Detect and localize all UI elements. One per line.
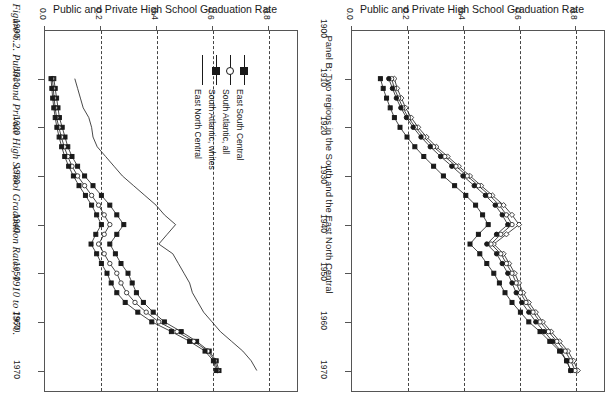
year-axis-label: 1970 bbox=[12, 360, 22, 379]
data-point bbox=[214, 369, 218, 373]
data-point bbox=[394, 96, 398, 100]
data-point bbox=[510, 300, 514, 304]
legend-label: East North Central bbox=[193, 89, 203, 159]
data-point bbox=[422, 154, 426, 158]
data-point bbox=[119, 281, 123, 285]
value-axis-tick bbox=[156, 26, 157, 30]
data-point bbox=[476, 232, 480, 236]
data-point bbox=[558, 349, 562, 353]
data-point bbox=[500, 213, 504, 217]
data-point bbox=[441, 174, 445, 178]
data-point bbox=[53, 116, 57, 120]
data-point bbox=[52, 106, 56, 110]
data-point bbox=[500, 261, 504, 265]
data-point bbox=[102, 232, 106, 236]
year-axis-tick bbox=[345, 79, 351, 80]
value-axis-tick bbox=[268, 26, 269, 30]
data-point bbox=[399, 106, 403, 110]
data-point bbox=[404, 115, 408, 119]
data-point bbox=[534, 320, 538, 324]
value-axis-label: 0.0 bbox=[345, 8, 355, 20]
chart-title-right: Public and Private High School Graduatio… bbox=[337, 3, 607, 15]
data-point bbox=[569, 369, 573, 373]
data-point bbox=[527, 320, 531, 324]
data-point bbox=[99, 223, 103, 227]
series-layer-left bbox=[44, 30, 296, 390]
data-point bbox=[113, 252, 117, 256]
legend-marker-filled-square bbox=[240, 67, 248, 75]
data-point bbox=[486, 223, 490, 227]
series-line bbox=[380, 79, 570, 371]
data-point bbox=[51, 96, 55, 100]
data-point bbox=[432, 164, 436, 168]
data-point bbox=[438, 154, 442, 158]
panel-left: Public and Private High School Graduatio… bbox=[0, 0, 307, 403]
value-axis-tick bbox=[100, 26, 101, 30]
data-point bbox=[503, 291, 507, 295]
legend-marker-open-circle bbox=[226, 67, 234, 75]
data-point bbox=[175, 329, 179, 333]
data-point bbox=[130, 281, 134, 285]
data-point bbox=[387, 76, 391, 80]
series-line bbox=[51, 79, 216, 371]
data-point bbox=[506, 222, 510, 226]
year-axis-label: 1950 bbox=[319, 262, 329, 281]
data-point bbox=[478, 252, 482, 256]
value-axis-label: 0.6 bbox=[513, 8, 523, 20]
data-point bbox=[75, 174, 79, 178]
data-point bbox=[50, 86, 54, 90]
data-point bbox=[453, 184, 457, 188]
year-axis-tick bbox=[345, 322, 351, 323]
data-point bbox=[119, 262, 123, 266]
data-point bbox=[115, 232, 119, 236]
year-axis-label: 1960 bbox=[12, 311, 22, 330]
data-point bbox=[126, 271, 130, 275]
data-point bbox=[55, 125, 59, 129]
year-axis-tick bbox=[345, 176, 351, 177]
year-axis-tick bbox=[345, 225, 351, 226]
year-axis-label: 1920 bbox=[319, 116, 329, 135]
year-axis-label: 1950 bbox=[12, 262, 22, 281]
data-point bbox=[211, 359, 215, 363]
value-axis-tick bbox=[212, 26, 213, 30]
value-axis-label: 0.2 bbox=[94, 8, 104, 20]
year-axis-tick bbox=[38, 273, 44, 274]
legend-label: South Atlantic, all bbox=[221, 89, 231, 154]
panel-right: Public and Private High School Graduatio… bbox=[307, 0, 614, 403]
data-point bbox=[527, 310, 531, 314]
data-point bbox=[96, 203, 100, 207]
data-point bbox=[169, 330, 173, 334]
data-point bbox=[483, 193, 487, 197]
data-point bbox=[188, 339, 192, 343]
data-point bbox=[151, 310, 155, 314]
data-point bbox=[464, 193, 468, 197]
value-axis-label: 0.8 bbox=[262, 8, 272, 20]
year-axis-label: 1940 bbox=[12, 214, 22, 233]
data-point bbox=[405, 135, 409, 139]
value-axis-tick bbox=[44, 26, 45, 30]
data-point bbox=[57, 135, 61, 139]
value-axis-label: 0.4 bbox=[150, 8, 160, 20]
year-axis-label: 1910 bbox=[12, 68, 22, 87]
data-point bbox=[419, 135, 423, 139]
data-point bbox=[481, 213, 485, 217]
data-point bbox=[542, 329, 546, 333]
data-point bbox=[162, 320, 166, 324]
data-point bbox=[115, 213, 119, 217]
value-axis-tick bbox=[351, 26, 352, 30]
data-point bbox=[468, 242, 472, 246]
data-point bbox=[49, 77, 53, 81]
data-point bbox=[388, 106, 392, 110]
year-axis-tick bbox=[38, 79, 44, 80]
data-point bbox=[122, 223, 126, 227]
data-point bbox=[390, 86, 394, 90]
year-axis-tick bbox=[345, 273, 351, 274]
series-layer-right bbox=[351, 30, 603, 390]
data-point bbox=[378, 77, 382, 81]
year-axis-label: 1970 bbox=[319, 360, 329, 379]
data-point bbox=[133, 300, 137, 304]
year-axis-label: 1930 bbox=[319, 165, 329, 184]
data-point bbox=[108, 242, 112, 246]
year-axis-label: 1940 bbox=[319, 214, 329, 233]
data-point bbox=[108, 261, 112, 265]
